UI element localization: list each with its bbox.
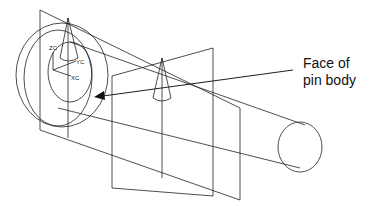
pin-head-inner — [48, 42, 92, 102]
pin-body-top-edge — [70, 42, 305, 125]
zc-label: ZC — [49, 45, 58, 51]
pin-end-face — [278, 122, 322, 172]
callout-line-1: Face of — [303, 55, 356, 72]
pin-head-rim — [24, 30, 92, 126]
callout-arrowhead — [94, 91, 105, 100]
pin-body-bottom-edge — [58, 108, 300, 168]
callout-leader-line — [103, 70, 293, 96]
pin-cad-drawing: ZC YC XC — [0, 0, 375, 206]
xc-label: XC — [71, 75, 80, 81]
callout-label: Face of pin body — [303, 55, 356, 89]
callout-line-2: pin body — [303, 72, 356, 89]
yc-axis — [53, 61, 76, 70]
left-datum-plane — [40, 10, 240, 200]
pin-head-outer — [16, 23, 108, 127]
yc-label: YC — [76, 59, 85, 65]
